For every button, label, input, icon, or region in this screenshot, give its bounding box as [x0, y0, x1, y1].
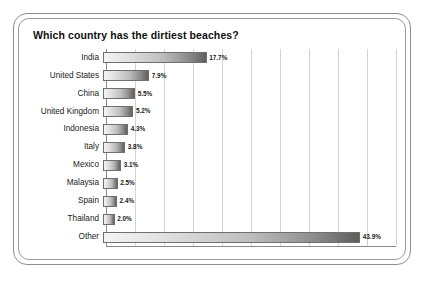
bar-value-label: 17.7% [209, 55, 227, 61]
bar-track: 2.0% [103, 210, 396, 228]
bar-row: India17.7% [29, 49, 396, 67]
bar-row: Indonesia4.3% [29, 121, 396, 139]
bar-value-label: 2.5% [120, 180, 135, 186]
bar-track: 7.9% [103, 67, 396, 85]
bar-value-label: 43.9% [363, 234, 381, 240]
bar-row: United States7.9% [29, 67, 396, 85]
bar-track: 5.5% [103, 85, 396, 103]
bar[interactable] [103, 160, 121, 171]
bar[interactable] [103, 52, 207, 63]
chart-frame-inner-border: Which country has the dirtiest beaches? … [18, 18, 406, 260]
bar[interactable] [103, 196, 117, 207]
bar-value-label: 3.8% [128, 144, 143, 150]
category-label: Malaysia [29, 179, 103, 187]
bar-value-label: 5.5% [138, 91, 153, 97]
category-label: United Kingdom [29, 108, 103, 116]
bar[interactable] [103, 178, 118, 189]
bar-track: 2.4% [103, 192, 396, 210]
bar-row: Thailand2.0% [29, 210, 396, 228]
bar[interactable] [103, 142, 125, 153]
bar-track: 2.5% [103, 174, 396, 192]
bar-row: Spain2.4% [29, 192, 396, 210]
bar[interactable] [103, 232, 360, 243]
bar-row: Mexico3.1% [29, 156, 396, 174]
plot-area: India17.7%United States7.9%China5.5%Unit… [29, 49, 396, 250]
x-axis-baseline [106, 246, 396, 247]
bar-value-label: 5.2% [136, 108, 151, 114]
bar-value-label: 3.1% [124, 162, 139, 168]
bar-value-label: 4.3% [131, 126, 146, 132]
bar[interactable] [103, 106, 133, 117]
category-label: India [29, 54, 103, 62]
category-label: Indonesia [29, 125, 103, 133]
bar-row: Malaysia2.5% [29, 174, 396, 192]
bar-track: 17.7% [103, 49, 396, 67]
bar[interactable] [103, 214, 115, 225]
bar-row: United Kingdom5.2% [29, 103, 396, 121]
bar-track: 4.3% [103, 121, 396, 139]
chart-title: Which country has the dirtiest beaches? [33, 29, 239, 41]
bar-rows: India17.7%United States7.9%China5.5%Unit… [29, 49, 396, 246]
bar-value-label: 2.0% [117, 216, 132, 222]
category-label: Mexico [29, 161, 103, 169]
bar-track: 3.8% [103, 139, 396, 157]
bar-row: Italy3.8% [29, 139, 396, 157]
chart-frame: Which country has the dirtiest beaches? … [13, 13, 411, 265]
bar[interactable] [103, 88, 135, 99]
bar-track: 43.9% [103, 228, 396, 246]
bar-row: China5.5% [29, 85, 396, 103]
category-label: United States [29, 72, 103, 80]
category-label: Italy [29, 143, 103, 151]
bar-value-label: 2.4% [120, 198, 135, 204]
bar[interactable] [103, 70, 149, 81]
bar-value-label: 7.9% [152, 73, 167, 79]
bar-track: 5.2% [103, 103, 396, 121]
category-label: China [29, 90, 103, 98]
gridline [396, 49, 397, 246]
bar-row: Other43.9% [29, 228, 396, 246]
bar-track: 3.1% [103, 156, 396, 174]
bar[interactable] [103, 124, 128, 135]
category-label: Other [29, 233, 103, 241]
category-label: Thailand [29, 215, 103, 223]
category-label: Spain [29, 197, 103, 205]
